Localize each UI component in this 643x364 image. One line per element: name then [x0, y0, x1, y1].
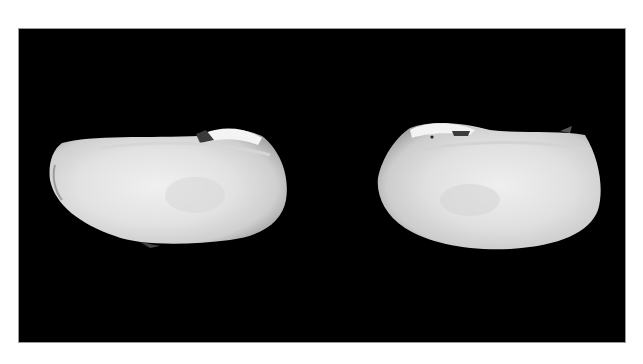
left-valve: [50, 129, 287, 248]
right-valve: [378, 123, 601, 249]
shells-photo: [0, 0, 643, 364]
